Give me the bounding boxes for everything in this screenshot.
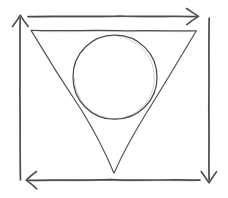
left-arrow <box>13 15 29 180</box>
inscribed-circle <box>73 35 157 119</box>
bottom-arrow-shaft-texture <box>34 180 194 181</box>
triangle-right-edge <box>114 31 196 173</box>
triangle-top-edge <box>32 30 197 31</box>
downward-triangle <box>31 30 196 172</box>
sketch-canvas: Downward-pointing triangle with an inscr… <box>0 0 228 198</box>
circle-outline <box>73 35 157 119</box>
triangle-left-edge <box>31 31 114 173</box>
right-arrow-shaft-texture <box>209 24 210 176</box>
right-arrow <box>201 18 216 183</box>
circle-outline-texture <box>74 36 154 119</box>
top-arrow-shaft-texture <box>34 17 192 18</box>
top-arrow-shaft <box>28 16 196 17</box>
bottom-arrow-shaft <box>28 180 200 181</box>
left-arrow-shaft-texture <box>20 20 21 175</box>
bottom-arrow <box>26 172 200 189</box>
hand-drawn-sketch <box>0 0 228 198</box>
top-arrow <box>28 9 199 25</box>
